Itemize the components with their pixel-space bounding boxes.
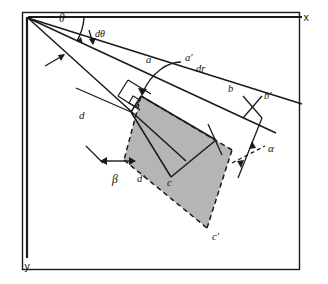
point-a-prime-label: a′ [185, 52, 193, 63]
point-d-prime-label: d′ [137, 173, 145, 184]
beta-label: β [111, 173, 118, 186]
y-axis-label: y [24, 260, 30, 272]
point-a-label: a [146, 54, 151, 65]
diagram-canvas: x y θ dθ a a′ dr d b b′ c c′ [0, 0, 328, 284]
d-length-label: d [79, 109, 85, 121]
alpha-label: α [268, 142, 274, 154]
dtheta-label: dθ [95, 28, 105, 39]
dr-label: dr [196, 63, 206, 74]
point-c-prime-label: c′ [212, 231, 220, 242]
x-axis-label: x [303, 11, 309, 23]
point-b-prime-label: b′ [264, 90, 272, 101]
point-b-label: b [228, 83, 233, 94]
point-c-label: c [167, 177, 172, 188]
theta-label: θ [59, 12, 65, 24]
